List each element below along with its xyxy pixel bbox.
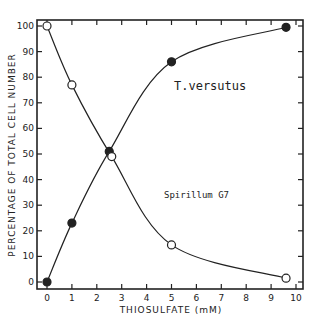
filled-circle-marker [168, 58, 176, 66]
x-tick-label: 10 [290, 293, 302, 303]
y-tick-label: 90 [23, 47, 35, 57]
open-circle-marker [282, 274, 290, 282]
filled-circle-marker [282, 23, 290, 31]
y-axis-ticks: 0102030405060708090100 [17, 21, 303, 287]
x-tick-label: 2 [94, 293, 100, 303]
open-circle-marker [108, 153, 116, 161]
filled-circle-marker [68, 219, 76, 227]
y-tick-label: 80 [23, 72, 35, 82]
x-tick-label: 9 [268, 293, 274, 303]
chart: 012345678910 0102030405060708090100 THIO… [0, 0, 317, 329]
x-tick-label: 6 [194, 293, 200, 303]
series-line [47, 26, 286, 278]
series-curves [47, 26, 286, 282]
series-label-t-versutus: T.versutus [174, 79, 246, 93]
x-tick-label: 0 [44, 293, 50, 303]
x-tick-label: 8 [243, 293, 249, 303]
y-tick-label: 20 [23, 226, 35, 236]
y-tick-label: 40 [23, 175, 35, 185]
y-tick-label: 10 [23, 251, 35, 261]
open-circle-marker [43, 22, 51, 30]
y-tick-label: 70 [23, 98, 35, 108]
x-tick-label: 5 [169, 293, 175, 303]
y-tick-label: 50 [23, 149, 35, 159]
x-tick-label: 4 [144, 293, 150, 303]
x-tick-label: 3 [119, 293, 125, 303]
open-circle-marker [68, 81, 76, 89]
y-axis-title: PERCENTAGE OF TOTAL CELL NUMBER [7, 53, 17, 257]
y-tick-label: 30 [23, 200, 35, 210]
data-points [43, 22, 290, 286]
series-label-spirillum-g7: Spirillum G7 [164, 190, 229, 200]
y-tick-label: 60 [23, 123, 35, 133]
y-tick-label: 100 [17, 21, 34, 31]
x-axis-title: THIOSULFATE (mM) [119, 305, 223, 315]
series-line [47, 27, 286, 282]
x-tick-label: 7 [218, 293, 224, 303]
filled-circle-marker [43, 278, 51, 286]
x-tick-label: 1 [69, 293, 75, 303]
open-circle-marker [168, 241, 176, 249]
y-tick-label: 0 [28, 277, 34, 287]
